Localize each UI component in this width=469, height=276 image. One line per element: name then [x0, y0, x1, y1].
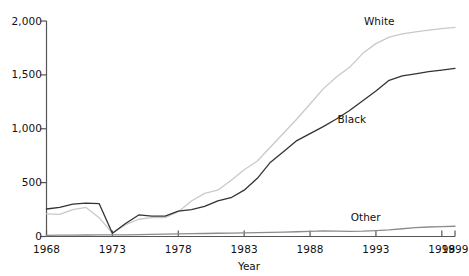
series-line-white [47, 27, 456, 233]
series-label-black: Black [338, 114, 366, 125]
x-axis-tick-label: 1999 [432, 244, 469, 255]
y-axis-tick-label: 0 [0, 231, 42, 242]
series-line-black [47, 68, 456, 233]
y-axis-tick-label: 2,000 [0, 16, 42, 27]
x-axis-tick-label: 1978 [155, 244, 201, 255]
chart-axes [41, 21, 456, 237]
x-axis-tick-label: 1968 [24, 244, 70, 255]
y-axis-tick-label: 1,500 [0, 69, 42, 80]
series-label-white: White [364, 16, 395, 27]
line-chart: 05001,0001,5002,000 19681973197819831988… [0, 0, 469, 276]
x-axis-tick-label: 1973 [89, 244, 135, 255]
y-axis-tick-label: 500 [0, 177, 42, 188]
series-label-other: Other [351, 212, 381, 223]
x-axis-tick-label: 1988 [287, 244, 333, 255]
chart-canvas [0, 0, 469, 276]
x-axis-title: Year [219, 261, 279, 272]
x-axis-tick-label: 1983 [221, 244, 267, 255]
chart-series [47, 27, 456, 235]
x-axis-tick-label: 1993 [353, 244, 399, 255]
y-axis-tick-label: 1,000 [0, 123, 42, 134]
